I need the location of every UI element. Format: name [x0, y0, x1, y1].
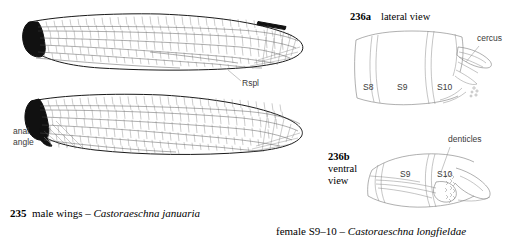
caption-235-text: male wings – — [32, 207, 93, 219]
forewing — [23, 14, 303, 70]
caption-235-number: 235 — [10, 207, 27, 219]
caption-236: female S9–10 – Castoraeschna longfieldae — [276, 225, 466, 237]
ventral-segment-s10: S10 — [437, 169, 452, 179]
cercus-label: cercus — [477, 33, 502, 43]
figure-236b-view-label-line1: ventral — [328, 163, 357, 174]
left-panel-wings: Rspl — [10, 14, 303, 219]
anal-angle-label-line1: anal — [13, 126, 29, 136]
anal-angle-label-line2: angle — [13, 137, 34, 147]
caption-236-species: Castoraeschna longfieldae — [348, 225, 466, 237]
figure-236b-number: 236b — [328, 151, 350, 162]
caption-235: 235 male wings – Castoraeschna januaria — [10, 207, 201, 219]
figure-236b-view-label-line2: view — [328, 175, 349, 186]
rspl-annotation: Rspl — [228, 70, 259, 88]
hindwing — [25, 94, 302, 154]
lateral-segment-s9: S9 — [397, 82, 408, 92]
figure-236a-view-label: lateral view — [381, 11, 431, 22]
figure-plate: Rspl — [0, 0, 515, 242]
lateral-view-drawing: S8 S9 S10 cercus — [355, 31, 502, 105]
figure-236a-number: 236a — [350, 11, 372, 22]
ventral-segment-s9: S9 — [400, 169, 411, 179]
right-panel-abdomen: 236a lateral view — [276, 11, 502, 237]
lateral-segment-s10: S10 — [437, 82, 452, 92]
caption-235-species: Castoraeschna januaria — [93, 207, 200, 219]
caption-236-text: female S9–10 – — [276, 225, 348, 237]
denticles-label: denticles — [448, 134, 482, 144]
rspl-label: Rspl — [242, 78, 259, 88]
ventral-view-drawing: S9 S10 denticles — [368, 134, 490, 207]
lateral-segment-s8: S8 — [363, 82, 374, 92]
